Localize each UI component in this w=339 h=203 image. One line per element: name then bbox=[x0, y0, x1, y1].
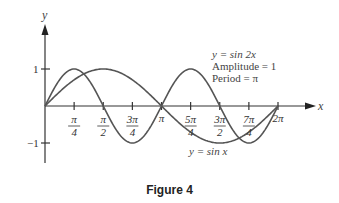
y-axis-arrow-icon bbox=[42, 24, 49, 35]
y-tick-label-neg1: −1 bbox=[27, 137, 39, 149]
x-tick-label-numerator: 3π bbox=[213, 113, 226, 125]
annotation-period: Period = π bbox=[212, 72, 276, 84]
chart-plot: y x 1 −1 π4π23π4π5π43π27π42π bbox=[0, 0, 339, 203]
x-tick-label-denominator: 2 bbox=[101, 126, 107, 138]
x-tick-label-numerator: 3π bbox=[126, 113, 139, 125]
x-axis-arrow-icon bbox=[305, 103, 316, 110]
x-axis-label: x bbox=[317, 99, 324, 113]
x-tick-label-denominator: 2 bbox=[217, 126, 223, 138]
annotation-sin-2x: y = sin 2x Amplitude = 1 Period = π bbox=[212, 48, 276, 84]
x-tick-label: π bbox=[159, 112, 165, 124]
y-axis-label: y bbox=[41, 8, 48, 22]
x-tick-label-numerator: 5π bbox=[185, 113, 197, 125]
annotation-amplitude: Amplitude = 1 bbox=[212, 60, 276, 72]
x-tick-labels: π4π23π4π5π43π27π42π bbox=[68, 112, 284, 138]
x-tick-label: 2π bbox=[272, 112, 284, 124]
y-tick-label-1: 1 bbox=[33, 63, 39, 75]
annotation-sin-2x-equation: y = sin 2x bbox=[212, 48, 276, 60]
figure-caption: Figure 4 bbox=[0, 183, 339, 197]
x-tick-label-denominator: 4 bbox=[71, 126, 77, 138]
x-tick-label-numerator: π bbox=[100, 113, 106, 125]
annotation-sin-x: y = sin x bbox=[189, 145, 227, 157]
x-tick-label-denominator: 4 bbox=[130, 126, 136, 138]
x-tick-label-denominator: 4 bbox=[188, 126, 194, 138]
x-tick-label-denominator: 4 bbox=[246, 126, 252, 138]
x-tick-label-numerator: 7π bbox=[243, 113, 255, 125]
x-tick-label-numerator: π bbox=[71, 113, 77, 125]
